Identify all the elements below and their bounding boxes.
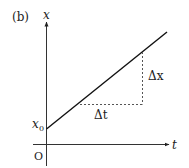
y-axis-label: x — [43, 8, 50, 22]
x-axis-label: t — [172, 138, 177, 152]
delta-t-label: Δt — [94, 108, 108, 122]
panel-label: (b) — [12, 10, 29, 24]
origin-label: O — [34, 150, 43, 163]
delta-x-label: Δx — [148, 69, 164, 83]
intercept-subscript: 0 — [39, 124, 44, 133]
position-time-diagram: (b) x t O x 0 Δt Δx — [0, 0, 189, 168]
intercept-label: x — [32, 117, 39, 131]
